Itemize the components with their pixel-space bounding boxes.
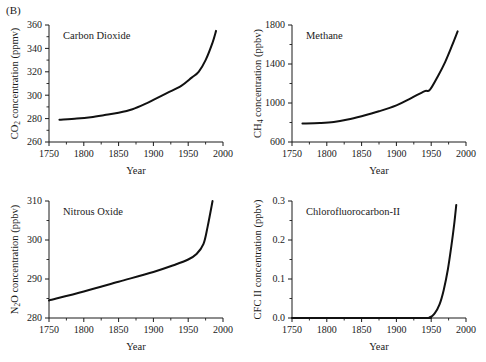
y-tick-label: 300 <box>27 234 42 245</box>
series-title: Carbon Dioxide <box>63 30 131 41</box>
chart-panel-2: 600100014001800175018001850190019502000Y… <box>252 19 476 176</box>
x-tick-label: 2000 <box>456 148 476 159</box>
x-tick-label: 1900 <box>143 148 163 159</box>
x-tick-label: 1900 <box>386 148 406 159</box>
x-tick-label: 1850 <box>352 148 372 159</box>
x-tick-label: 1950 <box>421 148 441 159</box>
y-tick-label: 360 <box>27 19 42 30</box>
x-tick-label: 1950 <box>421 324 441 335</box>
x-axis-title: Year <box>369 341 389 352</box>
x-tick-label: 1800 <box>317 324 337 335</box>
y-axis-title: N2O concentration (ppbv) <box>9 204 22 314</box>
y-tick-label: 0.2 <box>273 234 286 245</box>
series-title: Chlorofluorocarbon-II <box>306 206 400 217</box>
x-tick-label: 1750 <box>282 148 302 159</box>
y-tick-label: 1000 <box>265 97 285 108</box>
y-tick-label: 280 <box>27 113 42 124</box>
x-tick-label: 1750 <box>282 324 302 335</box>
y-tick-label: 290 <box>27 273 42 284</box>
x-tick-label: 1900 <box>386 324 406 335</box>
x-tick-label: 1800 <box>317 148 337 159</box>
series-title: Methane <box>306 30 343 41</box>
x-tick-label: 1900 <box>143 324 163 335</box>
y-tick-label: 0.1 <box>273 273 286 284</box>
x-tick-label: 1750 <box>39 324 59 335</box>
x-tick-label: 1850 <box>109 148 129 159</box>
data-curve <box>59 31 216 120</box>
x-tick-label: 2000 <box>213 324 233 335</box>
y-tick-label: 0.3 <box>273 195 286 206</box>
x-axis-title: Year <box>126 165 146 176</box>
charts-svg: 2602803003203403601750180018501900195020… <box>0 0 486 362</box>
x-tick-label: 1800 <box>74 324 94 335</box>
x-tick-label: 2000 <box>456 324 476 335</box>
x-tick-label: 1750 <box>39 148 59 159</box>
axis-spines <box>292 25 466 142</box>
figure-letter: (B) <box>6 4 21 16</box>
y-axis-title: CO2 concentration (ppmv) <box>9 27 22 139</box>
x-tick-label: 1800 <box>74 148 94 159</box>
y-tick-label: 260 <box>27 136 42 147</box>
y-tick-label: 600 <box>270 136 285 147</box>
y-tick-label: 320 <box>27 66 42 77</box>
x-axis-title: Year <box>126 341 146 352</box>
y-tick-label: 340 <box>27 43 42 54</box>
y-tick-label: 0.0 <box>273 312 286 323</box>
y-axis-title: CH4 concentration (ppbv) <box>252 29 265 138</box>
y-tick-label: 1800 <box>265 19 285 30</box>
y-tick-label: 1400 <box>265 58 285 69</box>
chart-panel-3: 280290300310175018001850190019502000Year… <box>9 195 233 352</box>
x-tick-label: 1850 <box>109 324 129 335</box>
y-tick-label: 300 <box>27 90 42 101</box>
x-tick-label: 2000 <box>213 148 233 159</box>
x-tick-label: 1950 <box>178 324 198 335</box>
y-tick-label: 280 <box>27 312 42 323</box>
axis-spines <box>49 201 223 318</box>
x-tick-label: 1950 <box>178 148 198 159</box>
axis-spines <box>49 25 223 142</box>
x-axis-title: Year <box>369 165 389 176</box>
data-curve <box>292 205 456 318</box>
series-title: Nitrous Oxide <box>63 206 123 217</box>
data-curve <box>302 31 457 123</box>
chart-panel-4: 0.00.10.20.3175018001850190019502000Year… <box>252 195 476 352</box>
greenhouse-gas-figure: (B) 260280300320340360175018001850190019… <box>0 0 486 362</box>
y-axis-title: CFC II concentration (ppbv) <box>252 199 264 319</box>
y-tick-label: 310 <box>27 195 42 206</box>
chart-panel-1: 2602803003203403601750180018501900195020… <box>9 19 233 176</box>
x-tick-label: 1850 <box>352 324 372 335</box>
